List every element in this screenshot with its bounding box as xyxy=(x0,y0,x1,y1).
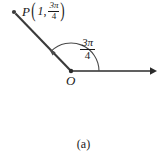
point-p-comma: , xyxy=(43,5,46,17)
polar-diagram xyxy=(0,0,167,158)
angle-measure-label: 3π 4 xyxy=(80,37,95,61)
polar-axis-arrowhead-icon xyxy=(150,67,157,75)
point-p-angle-denominator: 4 xyxy=(51,12,58,22)
point-p-open-paren: ( xyxy=(32,2,36,19)
point-p-angle-fraction: 3π 4 xyxy=(48,1,59,21)
point-p-name: P xyxy=(22,5,30,18)
point-p-label: P ( 1 , 3π 4 ) xyxy=(22,1,66,21)
polar-coordinate-figure: P ( 1 , 3π 4 ) 3π 4 O (a) xyxy=(0,0,167,158)
angle-numerator: 3π xyxy=(81,37,94,49)
point-p-angle-numerator: 3π xyxy=(48,1,59,11)
point-p-marker xyxy=(12,10,16,14)
point-p-close-paren: ) xyxy=(61,2,65,19)
polar-axis-ray xyxy=(71,67,157,75)
figure-caption: (a) xyxy=(0,137,167,152)
angle-denominator: 4 xyxy=(84,50,92,62)
origin-label: O xyxy=(66,73,75,89)
